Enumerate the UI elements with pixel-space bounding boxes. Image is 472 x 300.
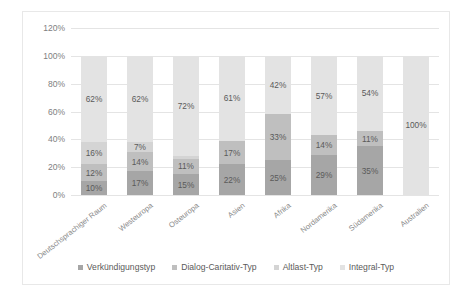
legend-item[interactable]: Verkündigungstyp	[78, 262, 155, 272]
y-axis-tick-label: 0%	[53, 190, 65, 200]
bar-segment-value-label: 61%	[219, 94, 245, 102]
bar-segment[interactable]: 54%	[357, 56, 383, 131]
bar-segment[interactable]: 61%	[219, 56, 245, 141]
chart-frame: 0%20%40%60%80%100%120% 10%12%16%62%17%14…	[22, 11, 450, 285]
bar-segment[interactable]: 14%	[127, 152, 153, 171]
bar-segment-value-label: 29%	[311, 171, 337, 179]
bar-segment[interactable]: 62%	[127, 56, 153, 142]
gridline-0	[71, 195, 439, 196]
bar-segment[interactable]: 42%	[265, 56, 291, 114]
bar-segment-value-label: 54%	[357, 89, 383, 97]
bar-segment-value-label: 100%	[403, 121, 429, 129]
legend-label: Dialog-Caritativ-Typ	[181, 262, 256, 272]
bar-segment-value-label: 15%	[173, 180, 199, 188]
bar-segment[interactable]: 62%	[81, 56, 107, 142]
y-axis-tick-label: 40%	[48, 134, 65, 144]
bar-segment[interactable]: 15%	[173, 174, 199, 195]
bar-stack[interactable]: 29%14%57%	[311, 56, 337, 195]
bar-segment[interactable]: 25%	[265, 160, 291, 195]
y-axis-tick-label: 80%	[48, 79, 65, 89]
bar-segment[interactable]: 10%	[81, 181, 107, 195]
y-axis-tick-label: 60%	[48, 107, 65, 117]
y-axis-tick-label: 120%	[43, 23, 65, 33]
bar-segment[interactable]: 17%	[127, 171, 153, 195]
bar-segment-value-label: 12%	[81, 169, 107, 177]
y-axis-tick-label: 20%	[48, 162, 65, 172]
bar-stack[interactable]: 100%	[403, 56, 429, 195]
bar-stack[interactable]: 17%14%7%62%	[127, 56, 153, 195]
bar-stack[interactable]: 22%17%61%	[219, 56, 245, 195]
bar-segment[interactable]: 12%	[81, 164, 107, 181]
bar-stack[interactable]: 35%11%54%	[357, 56, 383, 195]
bar-segment[interactable]: 17%	[219, 141, 245, 165]
bar-segment-value-label: 11%	[173, 162, 199, 170]
bar-stack[interactable]: 15%11%2%72%	[173, 56, 199, 195]
legend-swatch-icon	[172, 265, 177, 270]
gridline-120	[71, 28, 439, 29]
bar-segment[interactable]: 22%	[219, 164, 245, 195]
bar-segment-value-label: 14%	[127, 157, 153, 165]
legend-swatch-icon	[340, 265, 345, 270]
legend-label: Verkündigungstyp	[87, 262, 155, 272]
bar-segment-value-label: 35%	[357, 166, 383, 174]
legend-swatch-icon	[78, 265, 83, 270]
bar-segment-value-label: 62%	[81, 95, 107, 103]
bar-segment-value-label: 33%	[265, 133, 291, 141]
bar-segment-value-label: 25%	[265, 173, 291, 181]
bar-segment[interactable]: 11%	[357, 131, 383, 146]
legend-swatch-icon	[274, 265, 279, 270]
bar-segment-value-label: 17%	[127, 179, 153, 187]
bar-segment-value-label: 22%	[219, 176, 245, 184]
bar-segment[interactable]: 33%	[265, 114, 291, 160]
bar-segment[interactable]: 72%	[173, 56, 199, 156]
bar-segment[interactable]: 29%	[311, 155, 337, 195]
legend-label: Integral-Typ	[349, 262, 394, 272]
y-axis-tick-label: 100%	[43, 51, 65, 61]
bar-segment-value-label: 14%	[311, 141, 337, 149]
bar-segment-value-label: 10%	[81, 184, 107, 192]
bar-segment-value-label: 72%	[173, 102, 199, 110]
bar-segment-value-label: 11%	[357, 134, 383, 142]
bar-segment[interactable]: 14%	[311, 135, 337, 154]
bar-segment-value-label: 42%	[265, 81, 291, 89]
legend-item[interactable]: Dialog-Caritativ-Typ	[172, 262, 256, 272]
bar-stack[interactable]: 25%33%42%	[265, 56, 291, 195]
bar-segment[interactable]: 7%	[127, 142, 153, 152]
legend-label: Altlast-Typ	[283, 262, 323, 272]
bar-segment-value-label: 17%	[219, 148, 245, 156]
bar-stack[interactable]: 10%12%16%62%	[81, 56, 107, 195]
bar-segment[interactable]: 35%	[357, 146, 383, 195]
bar-segment-value-label: 16%	[81, 149, 107, 157]
bar-segment-value-label: 62%	[127, 95, 153, 103]
bar-segment[interactable]: 2%	[173, 156, 199, 159]
legend-item[interactable]: Integral-Typ	[340, 262, 394, 272]
bar-segment[interactable]: 11%	[173, 159, 199, 174]
bar-segment-value-label: 57%	[311, 91, 337, 99]
bar-segment-value-label: 7%	[127, 143, 153, 151]
chart-legend: VerkündigungstypDialog-Caritativ-TypAltl…	[23, 262, 449, 272]
bar-segment[interactable]: 16%	[81, 142, 107, 164]
bar-segment[interactable]: 100%	[403, 56, 429, 195]
category-label: Australien	[267, 201, 430, 300]
bar-segment[interactable]: 57%	[311, 56, 337, 135]
plot-area: 0%20%40%60%80%100%120% 10%12%16%62%17%14…	[71, 28, 439, 195]
legend-item[interactable]: Altlast-Typ	[274, 262, 323, 272]
